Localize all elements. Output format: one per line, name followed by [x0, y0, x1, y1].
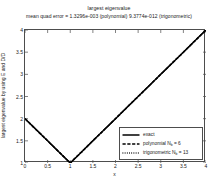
- legend-item[interactable]: exact: [122, 130, 200, 139]
- legend-label-subscript: b: [171, 143, 173, 147]
- chart-legend: exactpolynomial Nb = 6trigonometric Nb =…: [119, 127, 203, 160]
- y-tick-label: 1: [20, 160, 23, 166]
- legend-line-swatch-icon: [122, 149, 140, 157]
- legend-item[interactable]: polynomial Nb = 6: [122, 139, 200, 148]
- x-tick-label: 3: [159, 163, 162, 169]
- legend-line-swatch-icon: [122, 131, 140, 139]
- x-tick-label: 0: [24, 163, 27, 169]
- legend-item-label: polynomial Nb = 6: [143, 141, 181, 146]
- legend-line-swatch-icon: [122, 140, 140, 148]
- legend-item[interactable]: trigonometric Nb = 13: [122, 148, 200, 157]
- chart-subtitle: mean quad error = 1.3296e-003 (polynomia…: [0, 12, 218, 20]
- x-tick-label: 3.5: [180, 163, 187, 169]
- legend-item-label: exact: [143, 132, 154, 137]
- legend-item-label: trigonometric Nb = 13: [143, 150, 188, 155]
- matlab-figure: largest eigenvalue mean quad error = 1.3…: [0, 0, 218, 188]
- y-tick-label: 3.5: [16, 49, 23, 55]
- legend-label-subscript: b: [176, 152, 178, 156]
- x-tick-label: 4: [205, 163, 208, 169]
- x-tick-label: 2: [114, 163, 117, 169]
- y-tick-label: 3: [20, 71, 23, 77]
- x-tick-label: 1: [69, 163, 72, 169]
- y-tick-label: 4: [20, 27, 23, 33]
- x-tick-label: 0.5: [44, 163, 51, 169]
- x-tick-label: 2.5: [135, 163, 142, 169]
- x-axis-label: x: [24, 171, 205, 177]
- y-tick-label: 2: [20, 116, 23, 122]
- y-tick-label: 2.5: [16, 94, 23, 100]
- y-tick-label: 1.5: [16, 138, 23, 144]
- x-tick-label: 1.5: [89, 163, 96, 169]
- chart-title-block: largest eigenvalue mean quad error = 1.3…: [0, 4, 218, 20]
- y-axis-label: largest eigenvalue by using E and D/D: [0, 29, 8, 162]
- page-title: largest eigenvalue: [0, 4, 218, 12]
